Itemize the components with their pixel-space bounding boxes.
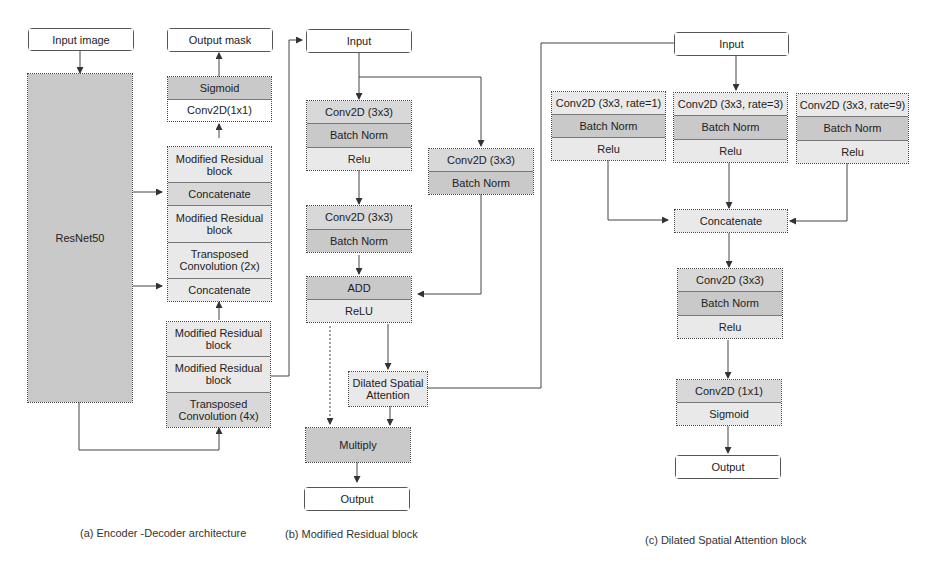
- conv-block-1: Conv2D (3x3) Batch Norm Relu: [306, 100, 412, 171]
- connector-lines: [0, 0, 931, 566]
- conv-block-c: Conv2D (3x3) Batch Norm Relu: [677, 268, 783, 339]
- dilated-spatial-attention-node: Dilated Spatial Attention: [348, 371, 428, 407]
- add-relu-block: ADD ReLU: [306, 276, 412, 323]
- concatenate-node-c: Concatenate: [674, 209, 788, 233]
- output-mask-node: Output mask: [167, 28, 273, 52]
- decoder-upper-stack: Modified Residual block Concatenate Modi…: [167, 146, 272, 302]
- multiply-node: Multiply: [305, 427, 411, 463]
- input-node-b: Input: [306, 29, 412, 53]
- caption-c: (c) Dilated Spatial Attention block: [645, 534, 806, 546]
- caption-a: (a) Encoder -Decoder architecture: [80, 527, 246, 539]
- input-image-node: Input image: [28, 28, 134, 51]
- dilated-branch-rate-9: Conv2D (3x3, rate=9) Batch Norm Relu: [796, 93, 909, 164]
- head-block-c: Conv2D (1x1) Sigmoid: [676, 379, 782, 426]
- caption-b: (b) Modified Residual block: [285, 528, 418, 540]
- input-node-c: Input: [674, 32, 789, 56]
- shortcut-block: Conv2D (3x3) Batch Norm: [428, 148, 534, 195]
- conv-block-2: Conv2D (3x3) Batch Norm: [306, 205, 412, 253]
- output-node-c: Output: [675, 455, 781, 479]
- dilated-branch-rate-1: Conv2D (3x3, rate=1) Batch Norm Relu: [551, 91, 666, 161]
- decoder-lower-stack: Modified Residual block Modified Residua…: [166, 321, 271, 428]
- head-block-a: Sigmoid Conv2D(1x1): [167, 76, 272, 122]
- resnet50-encoder: ResNet50: [27, 73, 133, 403]
- dilated-branch-rate-3: Conv2D (3x3, rate=3) Batch Norm Relu: [673, 92, 788, 163]
- output-node-b: Output: [304, 487, 410, 511]
